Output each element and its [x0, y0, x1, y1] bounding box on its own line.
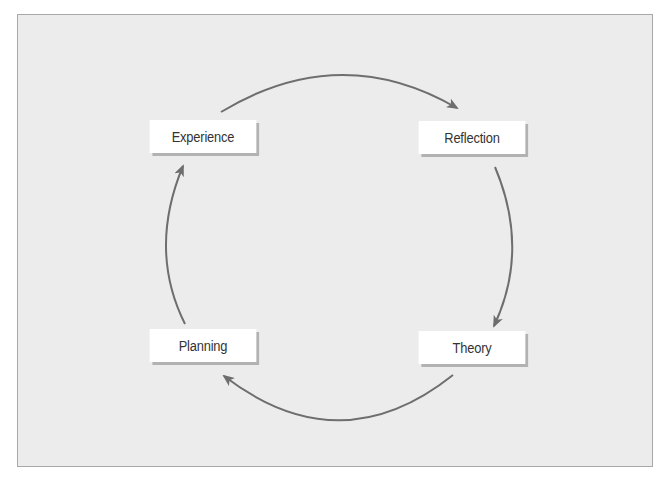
node-planning-label: Planning — [179, 338, 228, 354]
arrow-experience-to-reflection — [221, 75, 457, 112]
node-experience-label: Experience — [172, 129, 235, 145]
node-experience: Experience — [150, 120, 257, 153]
node-theory: Theory — [419, 331, 526, 364]
node-planning: Planning — [150, 329, 257, 362]
arrow-reflection-to-theory — [494, 167, 512, 326]
node-reflection-label: Reflection — [444, 130, 499, 146]
arrow-theory-to-planning — [224, 375, 453, 420]
node-reflection: Reflection — [419, 121, 526, 154]
node-theory-label: Theory — [453, 340, 492, 356]
cycle-arrows — [0, 0, 662, 480]
arrow-planning-to-experience — [166, 166, 185, 324]
